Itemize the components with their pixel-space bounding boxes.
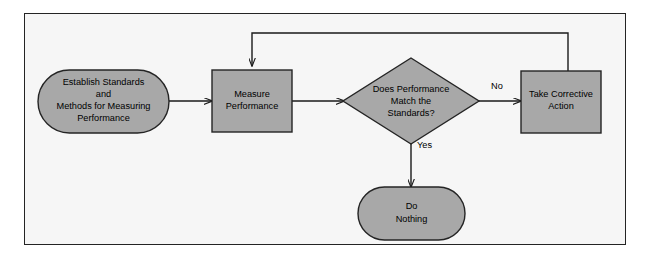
node-do-nothing[interactable]: Do Nothing: [358, 187, 465, 240]
node-label-line: Performance: [77, 113, 130, 123]
node-label-line: and: [96, 89, 111, 99]
node-label-line: Take Corrective: [529, 89, 593, 99]
edge-label-no: No: [491, 81, 503, 91]
node-label-line: Nothing: [396, 214, 428, 224]
edge-label-yes: Yes: [417, 140, 432, 150]
node-label-line: Performance: [226, 101, 279, 111]
node-label-line: Measure: [234, 89, 270, 99]
flowchart-svg: No Yes Establish Standards and Methods f…: [0, 0, 646, 261]
node-does-performance-match[interactable]: Does Performance Match the Standards?: [343, 58, 479, 144]
node-label-line: Action: [548, 101, 574, 111]
node-establish-standards[interactable]: Establish Standards and Methods for Meas…: [38, 70, 169, 133]
node-measure-performance[interactable]: Measure Performance: [212, 70, 292, 132]
edge-decision-to-corrective: No: [479, 81, 521, 101]
node-take-corrective-action[interactable]: Take Corrective Action: [521, 71, 601, 133]
node-label-line: Methods for Measuring: [57, 101, 151, 111]
node-label-line: Establish Standards: [63, 77, 145, 87]
node-label-line: Do: [406, 201, 418, 211]
node-label-line: Match the: [391, 96, 431, 106]
diagram-canvas: No Yes Establish Standards and Methods f…: [0, 0, 646, 261]
node-label-line: Does Performance: [373, 84, 450, 94]
node-label-line: Standards?: [388, 108, 435, 118]
